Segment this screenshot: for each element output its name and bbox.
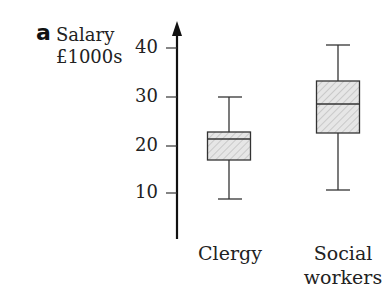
category-label-social-line1: Social bbox=[300, 241, 386, 265]
box-social-workers bbox=[317, 45, 360, 190]
box-clergy bbox=[208, 97, 251, 199]
axis-arrow-icon bbox=[172, 21, 182, 36]
category-label-social-workers: Social workers bbox=[300, 241, 386, 289]
box-iqr bbox=[317, 81, 360, 133]
category-label-social-line2: workers bbox=[300, 265, 386, 289]
category-label-clergy: Clergy bbox=[192, 241, 268, 265]
box-iqr bbox=[208, 132, 251, 160]
y-axis bbox=[166, 21, 182, 239]
